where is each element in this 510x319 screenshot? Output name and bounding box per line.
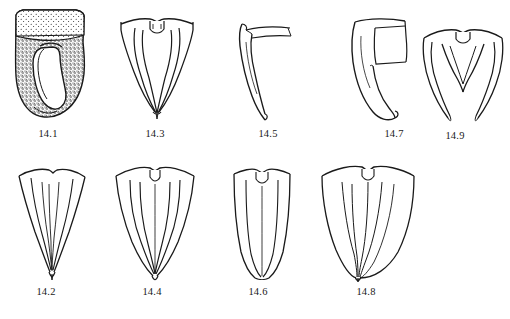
figure-14-3 (117, 16, 197, 126)
figure-caption-14-9: 14.9 (427, 130, 483, 141)
figure-14-4 (112, 164, 198, 282)
figure-14-2 (15, 166, 89, 282)
figure-caption-14-2: 14.2 (18, 286, 74, 297)
figure-14-5 (232, 18, 302, 126)
figure-caption-14-7: 14.7 (366, 128, 422, 139)
illustration-plate: 14.1 14.3 (0, 0, 510, 319)
figure-caption-14-3: 14.3 (127, 128, 183, 139)
figure-14-6 (228, 166, 296, 280)
figure-caption-14-5: 14.5 (240, 128, 296, 139)
figure-14-7 (345, 16, 425, 126)
figure-caption-14-6: 14.6 (230, 286, 286, 297)
figure-caption-14-4: 14.4 (124, 286, 180, 297)
figure-caption-14-1: 14.1 (20, 128, 76, 139)
figure-14-9 (420, 26, 506, 128)
figure-14-1 (10, 8, 100, 128)
figure-14-8 (318, 164, 418, 282)
figure-caption-14-8: 14.8 (338, 286, 394, 297)
